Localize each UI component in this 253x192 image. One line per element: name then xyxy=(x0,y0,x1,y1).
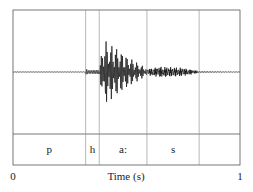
plot-frame xyxy=(13,10,240,165)
waveform-chart xyxy=(0,0,253,192)
segment-label: h xyxy=(90,144,96,155)
segment-label: p xyxy=(47,144,53,155)
x-max-label: 1 xyxy=(237,171,243,182)
x-min-label: 0 xyxy=(10,171,16,182)
segment-label: a: xyxy=(119,144,127,155)
x-axis-label: Time (s) xyxy=(107,171,144,182)
segment-boundaries xyxy=(86,10,200,165)
waveform xyxy=(13,42,240,102)
segment-label: s xyxy=(171,144,175,155)
